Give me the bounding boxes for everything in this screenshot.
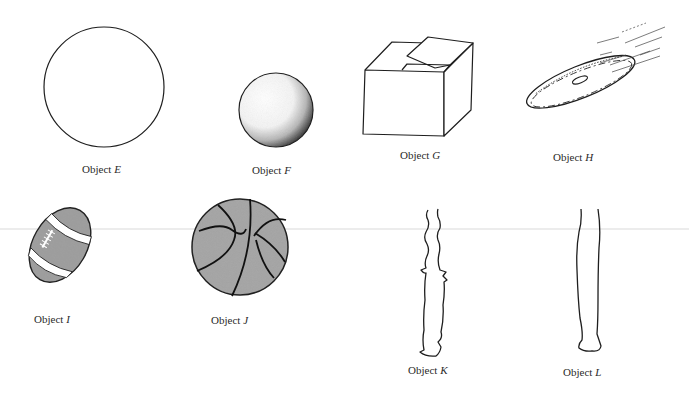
object-g-box-icon	[363, 37, 473, 136]
label-object-g: ObjectG	[400, 149, 440, 161]
object-h-disc-icon	[521, 23, 665, 118]
label-object-k: ObjectK	[408, 364, 448, 376]
object-i-football-icon	[17, 197, 104, 293]
figure-canvas	[0, 0, 689, 393]
object-k-stick-icon	[420, 209, 447, 356]
object-l-stick-icon	[577, 209, 601, 351]
label-object-l: ObjectL	[563, 366, 601, 378]
label-object-i: ObjectI	[34, 313, 70, 325]
label-object-e: ObjectE	[82, 163, 121, 175]
label-object-h: ObjectH	[553, 151, 593, 163]
object-j-basketball-icon	[192, 199, 288, 296]
object-e-circle-icon	[44, 27, 164, 147]
object-f-sphere-icon	[239, 73, 313, 147]
label-object-f: ObjectF	[252, 164, 291, 176]
label-object-j: ObjectJ	[211, 314, 248, 326]
